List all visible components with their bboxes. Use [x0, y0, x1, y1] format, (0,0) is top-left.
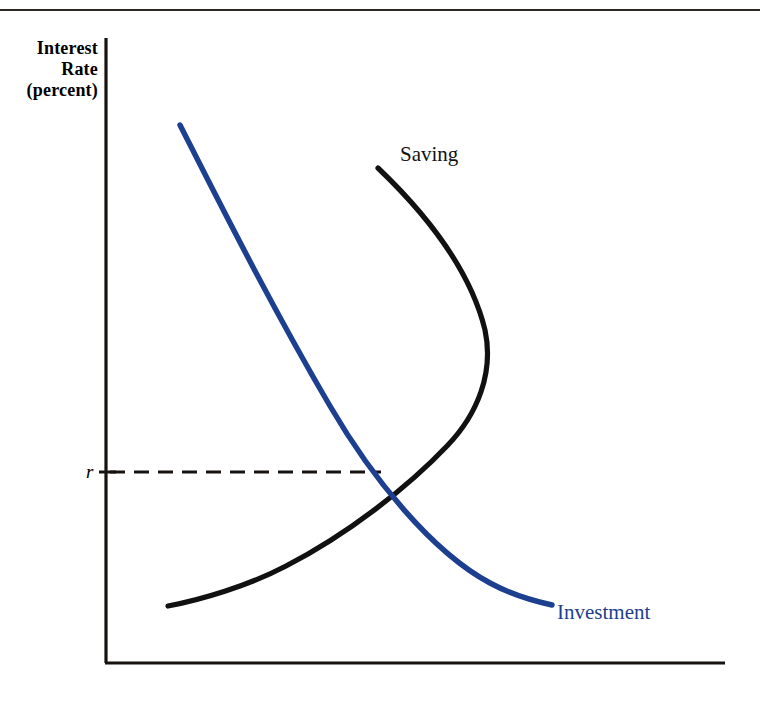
saving-curve-label: Saving: [400, 144, 458, 165]
plot-area: [0, 0, 760, 704]
saving-curve: [168, 168, 487, 606]
investment-curve: [180, 125, 552, 605]
investment-curve-label: Investment: [557, 602, 650, 623]
y-axis-label: Interest Rate (percent): [0, 38, 98, 101]
interest-rate-tick-label: r: [86, 461, 93, 482]
y-axis-label-line-1: Interest: [0, 38, 98, 59]
y-axis-label-line-2: Rate: [0, 59, 98, 80]
economics-figure: Interest Rate (percent) r Saving Investm…: [0, 0, 760, 704]
y-axis-label-line-3: (percent): [0, 80, 98, 101]
top-divider-rule: [0, 9, 760, 11]
